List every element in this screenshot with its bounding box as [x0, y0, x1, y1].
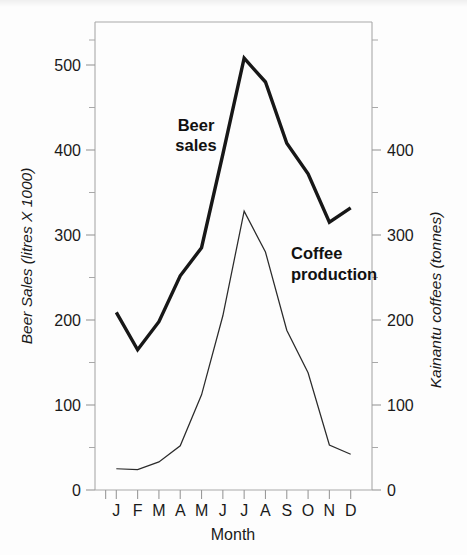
- right-axis-major-ticks: [372, 150, 381, 490]
- beer-sales-annotation: Beer sales: [175, 116, 216, 154]
- left-tick-label-100: 100: [54, 397, 81, 414]
- x-axis-title: Month: [211, 526, 255, 543]
- x-axis-month-labels: JFMAMJJASOND: [112, 502, 356, 519]
- line-chart: 0 100 200 300 400 500 0 100: [0, 0, 467, 555]
- coffee-annotation-line1: Coffee: [291, 244, 342, 262]
- right-tick-label-100: 100: [387, 397, 414, 414]
- left-axis-title: Beer Sales (litres X 1000): [18, 168, 35, 345]
- right-tick-label-0: 0: [387, 482, 396, 499]
- x-axis-month-label: N: [324, 502, 336, 519]
- coffee-production-annotation: Coffee production: [291, 244, 377, 283]
- chart-container: 0 100 200 300 400 500 0 100: [0, 0, 467, 555]
- x-axis-month-label: A: [260, 502, 271, 519]
- left-tick-label-300: 300: [54, 227, 81, 244]
- right-axis-tick-labels: 0 100 200 300 400: [387, 142, 414, 499]
- beer-sales-line: [116, 58, 350, 350]
- left-tick-label-200: 200: [54, 312, 81, 329]
- x-axis-month-label: S: [281, 502, 292, 519]
- x-axis-ticks: [106, 490, 351, 499]
- x-axis-month-label: F: [133, 502, 143, 519]
- left-axis-tick-labels: 0 100 200 300 400 500: [54, 57, 81, 499]
- left-tick-label-0: 0: [72, 482, 81, 499]
- x-axis-month-label: J: [219, 502, 227, 519]
- x-axis-month-label: J: [112, 502, 120, 519]
- x-axis-month-label: A: [175, 502, 186, 519]
- x-axis-month-label: J: [240, 502, 248, 519]
- left-tick-label-500: 500: [54, 57, 81, 74]
- x-axis-month-label: M: [195, 502, 208, 519]
- right-tick-label-400: 400: [387, 142, 414, 159]
- beer-annotation-line1: Beer: [178, 116, 215, 134]
- left-tick-label-400: 400: [54, 142, 81, 159]
- x-axis-month-label: M: [152, 502, 165, 519]
- left-axis-minor-ticks: [89, 40, 95, 448]
- right-axis-title: Kainantu coffees (tonnes): [427, 212, 444, 389]
- coffee-annotation-line2: production: [291, 265, 377, 283]
- right-tick-label-200: 200: [387, 312, 414, 329]
- beer-annotation-line2: sales: [175, 136, 216, 154]
- right-tick-label-300: 300: [387, 227, 414, 244]
- x-axis-month-label: D: [345, 502, 357, 519]
- right-axis-minor-ticks: [372, 40, 378, 448]
- x-axis-month-label: O: [302, 502, 314, 519]
